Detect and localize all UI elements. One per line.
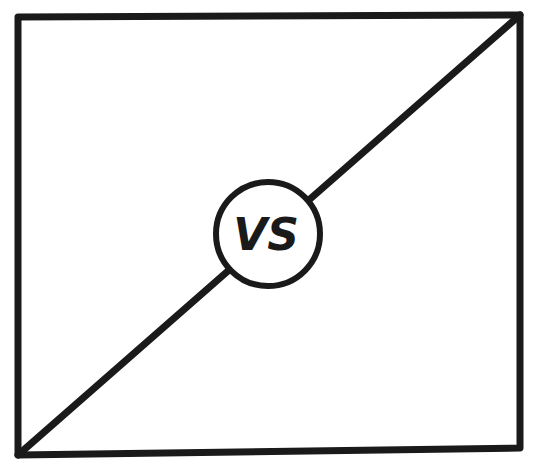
vs-badge: VS (216, 182, 320, 286)
versus-diagram: VS (0, 0, 535, 471)
vs-label: VS (233, 209, 299, 260)
